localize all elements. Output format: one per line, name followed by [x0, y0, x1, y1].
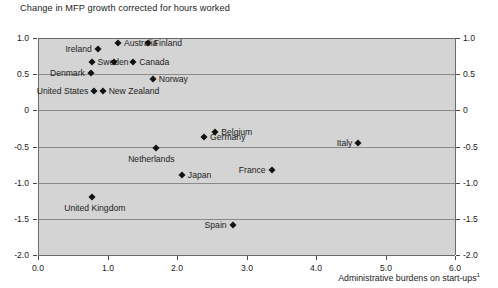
y-tick-mark-right: [456, 110, 460, 111]
x-tick-label: 1.0: [102, 264, 114, 273]
x-tick-label: 0.0: [32, 264, 44, 273]
y-tick-mark-right: [456, 38, 460, 39]
y-tick-mark-left: [33, 110, 37, 111]
y-tick-mark-left: [33, 147, 37, 148]
y-tick-label-left: 0.5: [0, 70, 29, 79]
data-point-label: Netherlands: [128, 155, 174, 164]
y-tick-mark-left: [33, 38, 37, 39]
y-tick-label-left: 0: [0, 106, 29, 115]
x-tick-mark: [455, 256, 456, 260]
data-point-label: Denmark: [50, 68, 85, 77]
data-point-label: Italy: [337, 139, 353, 148]
y-tick-label-left: -1.0: [0, 179, 29, 188]
x-tick-mark: [108, 256, 109, 260]
x-axis-caption-text: Administrative burdens on start-ups: [338, 273, 476, 283]
y-tick-mark-left: [33, 74, 37, 75]
y-tick-label-right: 0: [463, 106, 468, 115]
y-tick-label-right: -1.0: [463, 179, 478, 188]
y-tick-label-right: -2.0: [463, 251, 478, 260]
y-tick-mark-left: [33, 183, 37, 184]
gridline-y: [38, 110, 455, 111]
y-axis-left-spine: [38, 38, 39, 255]
y-tick-label-left: 1.0: [0, 34, 29, 43]
data-point-label: Ireland: [65, 45, 91, 54]
data-point-label: Japan: [188, 171, 211, 180]
data-point-label: Australia: [124, 39, 157, 48]
gridline-y: [38, 74, 455, 75]
data-point-label: Canada: [139, 58, 169, 67]
x-tick-label: 3.0: [241, 264, 253, 273]
x-axis-caption: Administrative burdens on start-ups1: [338, 271, 480, 283]
chart-container: Change in MFP growth corrected for hours…: [0, 0, 498, 288]
y-tick-mark-right: [456, 74, 460, 75]
y-tick-label-right: 0.5: [463, 70, 475, 79]
y-tick-mark-right: [456, 219, 460, 220]
data-point-label: Germany: [210, 133, 245, 142]
data-point-label: United Kingdom: [64, 204, 125, 213]
y-tick-label-right: -1.5: [463, 215, 478, 224]
footnote-marker: 1: [477, 271, 480, 278]
chart-title: Change in MFP growth corrected for hours…: [20, 3, 230, 13]
data-point-label: New Zealand: [109, 87, 160, 96]
data-point-label: Finland: [154, 39, 182, 48]
gridline-y: [38, 147, 455, 148]
y-tick-mark-left: [33, 219, 37, 220]
x-tick-label: 4.0: [310, 264, 322, 273]
y-tick-label-left: -2.0: [0, 251, 29, 260]
y-tick-label-right: -0.5: [463, 143, 478, 152]
y-tick-mark-left: [33, 255, 37, 256]
gridline-y: [38, 183, 455, 184]
data-point-label: United States: [37, 87, 89, 96]
x-tick-mark: [38, 256, 39, 260]
data-point-label: France: [239, 166, 266, 175]
gridline-y: [38, 219, 455, 220]
y-axis-right-spine: [455, 38, 456, 255]
y-tick-label-right: 1.0: [463, 34, 475, 43]
data-point-label: Spain: [205, 220, 227, 229]
plot-frame-line: [38, 38, 455, 39]
x-tick-mark: [247, 256, 248, 260]
y-tick-label-left: -0.5: [0, 143, 29, 152]
y-tick-mark-right: [456, 255, 460, 256]
y-tick-mark-right: [456, 183, 460, 184]
x-tick-mark: [316, 256, 317, 260]
data-point-label: Norway: [159, 74, 188, 83]
x-tick-label: 2.0: [171, 264, 183, 273]
x-tick-mark: [177, 256, 178, 260]
y-tick-mark-right: [456, 147, 460, 148]
y-tick-label-left: -1.5: [0, 215, 29, 224]
x-tick-mark: [386, 256, 387, 260]
